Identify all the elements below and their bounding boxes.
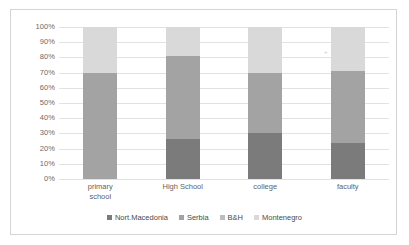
bar-segment[interactable] [248,27,282,73]
legend-label: Nort.Macedonia [115,213,168,222]
y-axis-tick-label: 40% [15,114,55,122]
legend-item[interactable]: Serbia [179,213,209,222]
gridline [59,179,389,180]
legend-swatch-icon [107,215,112,220]
legend-label: Montenegro [262,213,302,222]
bar-segment[interactable] [166,27,200,56]
x-axis-tick-label-line: college [232,182,298,192]
x-axis: primaryschoolHigh Schoolcollegefaculty [59,182,389,210]
y-axis-tick-label: 20% [15,145,55,153]
bar-column[interactable] [331,27,365,179]
x-axis-tick-label: primaryschool [67,182,133,201]
stray-plus-mark: + [324,49,328,55]
x-axis-tick-label-line: primary [67,182,133,192]
plot-area [59,27,389,179]
x-axis-tick-label-line: High School [150,182,216,192]
y-axis-tick-label: 70% [15,69,55,77]
bar-segment[interactable] [248,133,282,179]
y-axis: 100%90%80%70%60%50%40%30%20%10%0% [13,27,55,179]
legend-swatch-icon [254,215,259,220]
bar-segment[interactable] [83,27,117,73]
bar-segment[interactable] [166,139,200,179]
legend-label: Serbia [187,213,209,222]
legend-swatch-icon [220,215,225,220]
bar-column[interactable] [166,27,200,179]
y-axis-tick-label: 10% [15,160,55,168]
x-axis-tick-label: college [232,182,298,192]
legend-item[interactable]: Montenegro [254,213,302,222]
y-axis-tick-label: 80% [15,53,55,61]
legend-item[interactable]: B&H [220,213,243,222]
bar-segment[interactable] [166,56,200,140]
bar-segment[interactable] [83,73,117,179]
bar-column[interactable] [83,27,117,179]
x-axis-tick-label: faculty [315,182,381,192]
chart-frame: 100%90%80%70%60%50%40%30%20%10%0% + prim… [10,9,397,235]
y-axis-tick-label: 90% [15,38,55,46]
legend-item[interactable]: Nort.Macedonia [107,213,168,222]
legend-label: B&H [228,213,243,222]
bar-segment[interactable] [248,73,282,134]
legend-swatch-icon [179,215,184,220]
y-axis-tick-label: 100% [15,23,55,31]
y-axis-tick-label: 0% [15,175,55,183]
x-axis-tick-label-line: faculty [315,182,381,192]
bar-column[interactable] [248,27,282,179]
y-axis-tick-label: 30% [15,129,55,137]
bar-segment[interactable] [331,143,365,179]
x-axis-tick-label: High School [150,182,216,192]
y-axis-tick-label: 50% [15,99,55,107]
x-axis-tick-label-line: school [67,192,133,202]
y-axis-tick-label: 60% [15,84,55,92]
bar-segment[interactable] [331,71,365,142]
chart-legend: Nort.MacedoniaSerbiaB&HMontenegro [11,213,398,222]
bar-segment[interactable] [331,27,365,71]
